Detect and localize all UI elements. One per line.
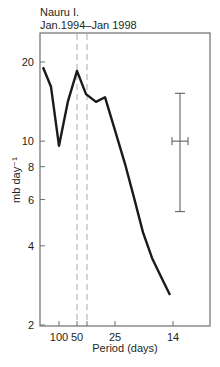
x-tick-label: 100 (50, 331, 68, 343)
plot-frame (40, 33, 210, 326)
y-tick-label: 10 (22, 135, 34, 147)
data-line (43, 67, 170, 295)
x-tick-label: 50 (71, 331, 83, 343)
line-chart: 24681020100502514Period (days)mb day⁻¹ (0, 0, 220, 367)
y-tick-label: 4 (28, 240, 34, 252)
x-tick-label: 14 (167, 331, 179, 343)
y-tick-label: 2 (28, 319, 34, 331)
y-tick-label: 8 (28, 161, 34, 173)
y-tick-label: 6 (28, 194, 34, 206)
x-axis-label: Period (days) (92, 342, 157, 354)
y-tick-label: 20 (22, 56, 34, 68)
y-axis-label: mb day⁻¹ (10, 157, 22, 203)
